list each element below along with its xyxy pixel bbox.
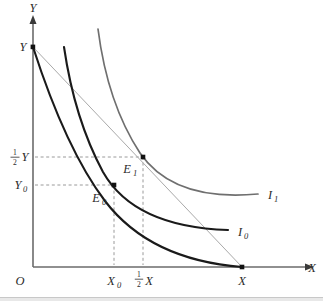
point-e0 — [112, 183, 117, 188]
x-zero-subscript: 0 — [117, 280, 122, 290]
svg-text:1: 1 — [13, 148, 17, 157]
indifference-curve-i1 — [98, 29, 258, 195]
y-zero-subscript: 0 — [23, 184, 28, 194]
axes-group — [30, 15, 315, 271]
point-y-intercept — [31, 45, 36, 50]
i1-curve-label: I 1 — [267, 188, 278, 204]
svg-text:I: I — [267, 188, 273, 202]
y-half-variable: Y — [22, 150, 31, 164]
y-axis-arrowhead — [30, 15, 37, 24]
y-axis-label: Y — [30, 1, 39, 15]
bottom-divider — [0, 296, 323, 301]
y-zero-label: Y 0 — [15, 178, 28, 194]
x-intercept-label: X — [237, 274, 247, 288]
x-axis-label: X — [307, 261, 317, 275]
x-half-variable: X — [144, 274, 154, 288]
svg-text:I: I — [237, 225, 243, 239]
y-intercept-label: Y — [20, 40, 29, 54]
indifference-curve-chart: Y X O Y 1 2 Y Y 0 X 0 1 2 X X E — [0, 0, 323, 301]
y-half-label: 1 2 Y — [11, 148, 31, 167]
svg-text:1: 1 — [137, 270, 141, 279]
e1-subscript: 1 — [133, 168, 137, 178]
indifference-curve-i0 — [64, 47, 228, 230]
figure-container: Y X O Y 1 2 Y Y 0 X 0 1 2 X X E — [0, 0, 323, 301]
svg-text:E: E — [91, 191, 100, 205]
svg-text:X: X — [106, 274, 116, 288]
point-x-intercept — [240, 265, 245, 270]
e1-label: E 1 — [122, 162, 137, 178]
x-half-label: 1 2 X — [135, 270, 154, 289]
svg-text:2: 2 — [13, 158, 17, 167]
origin-label: O — [15, 274, 24, 288]
i0-subscript: 0 — [244, 231, 249, 241]
i0-curve-label: I 0 — [237, 225, 249, 241]
i1-subscript: 1 — [274, 194, 278, 204]
e0-label: E 0 — [91, 191, 107, 207]
x-zero-label: X 0 — [106, 274, 122, 290]
svg-text:2: 2 — [137, 280, 141, 289]
point-e1 — [141, 155, 146, 160]
svg-text:E: E — [122, 162, 131, 176]
